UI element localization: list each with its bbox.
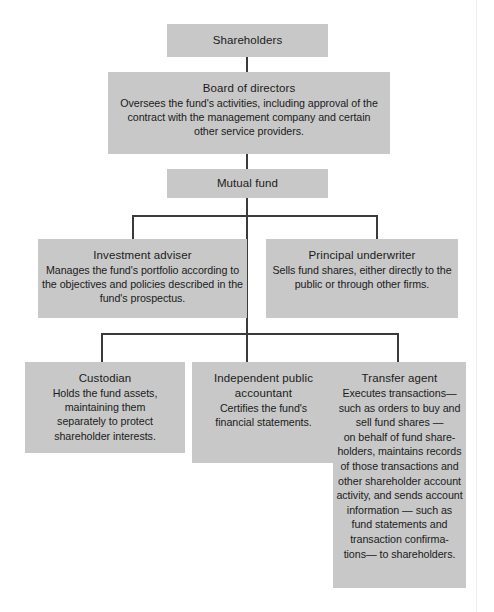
page-edge-artifact [476,0,477,612]
node-shareholders: Shareholders [167,24,328,57]
connector-drop-transfer-agent [397,333,399,362]
node-transfer-agent-title: Transfer agent [362,371,438,386]
node-transfer-agent-description: Executes transactions— such as orders to… [336,386,462,561]
node-mutual-fund: Mutual fund [167,169,328,198]
node-investment-adviser-description: Manages the fund's portfolio according t… [42,263,243,306]
node-custodian: Custodian Holds the fund assets, maintai… [25,362,185,453]
node-principal-underwriter-title: Principal underwriter [309,248,416,263]
node-transfer-agent: Transfer agent Executes transactions— su… [333,362,466,588]
connector-shareholders-to-board [246,57,248,72]
node-board-of-directors-description: Oversees the fund's activities, includin… [120,96,378,139]
node-independent-public-accountant-title: Independent public accountant [214,371,313,401]
node-principal-underwriter-description: Sells fund shares, either directly to th… [272,263,451,291]
node-mutual-fund-title: Mutual fund [217,176,278,191]
connector-board-to-mutualfund [246,154,248,169]
node-custodian-title: Custodian [79,371,132,386]
connector-drop-principal-underwriter [376,215,378,239]
node-independent-public-accountant: Independent public accountant Certifies … [192,362,335,463]
node-principal-underwriter: Principal underwriter Sells fund shares,… [266,239,458,318]
node-independent-public-accountant-description: Certifies the fund's financial statement… [215,401,311,429]
node-investment-adviser: Investment adviser Manages the fund's po… [38,239,247,318]
node-custodian-description: Holds the fund assets, maintaining them … [53,386,158,443]
connector-drop-custodian [101,333,103,362]
connector-tier2-branch-bar [132,215,378,217]
connector-tier3-branch-bar [101,333,399,335]
connector-drop-investment-adviser [132,215,134,239]
node-board-of-directors: Board of directors Oversees the fund's a… [108,72,390,154]
node-shareholders-title: Shareholders [213,33,283,48]
connector-drop-accountant [246,333,248,362]
org-chart: Shareholders Board of directors Oversees… [0,0,494,612]
node-board-of-directors-title: Board of directors [203,81,296,96]
node-investment-adviser-title: Investment adviser [93,248,191,263]
